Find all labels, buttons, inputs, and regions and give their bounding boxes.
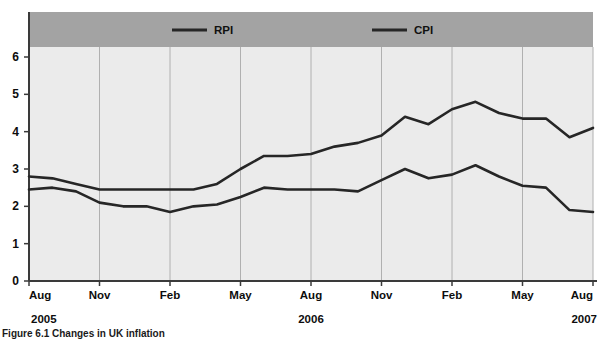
- x-tick-label: Aug: [29, 289, 51, 301]
- year-label: 2006: [298, 313, 324, 325]
- y-tick-label: 1: [12, 237, 19, 251]
- y-tick-label: 3: [12, 162, 19, 176]
- y-tick-label: 5: [12, 87, 19, 101]
- legend-label-cpi: CPI: [414, 24, 433, 36]
- y-tick-label: 2: [12, 199, 19, 213]
- x-tick-label: Aug: [300, 289, 322, 301]
- inflation-figure: RPICPI 0123456 AugNovFebMayAugNovFebMayA…: [0, 0, 611, 340]
- x-tick-label: May: [229, 289, 252, 301]
- legend-band: [29, 12, 593, 47]
- year-label: 2005: [31, 313, 57, 325]
- x-tick-label: Nov: [89, 289, 111, 301]
- y-tick-label: 4: [12, 125, 19, 139]
- year-label: 2007: [571, 313, 597, 325]
- x-tick-label: Aug: [571, 289, 593, 301]
- legend-label-rpi: RPI: [214, 24, 233, 36]
- y-tick-label: 0: [12, 274, 19, 288]
- y-tick-label: 6: [12, 50, 19, 64]
- inflation-line-chart: RPICPI 0123456 AugNovFebMayAugNovFebMayA…: [0, 0, 611, 340]
- x-tick-label: Feb: [160, 289, 180, 301]
- figure-caption: Figure 6.1 Changes in UK inflation: [2, 328, 165, 339]
- x-tick-label: Feb: [442, 289, 462, 301]
- x-tick-label: May: [511, 289, 534, 301]
- x-tick-label: Nov: [371, 289, 393, 301]
